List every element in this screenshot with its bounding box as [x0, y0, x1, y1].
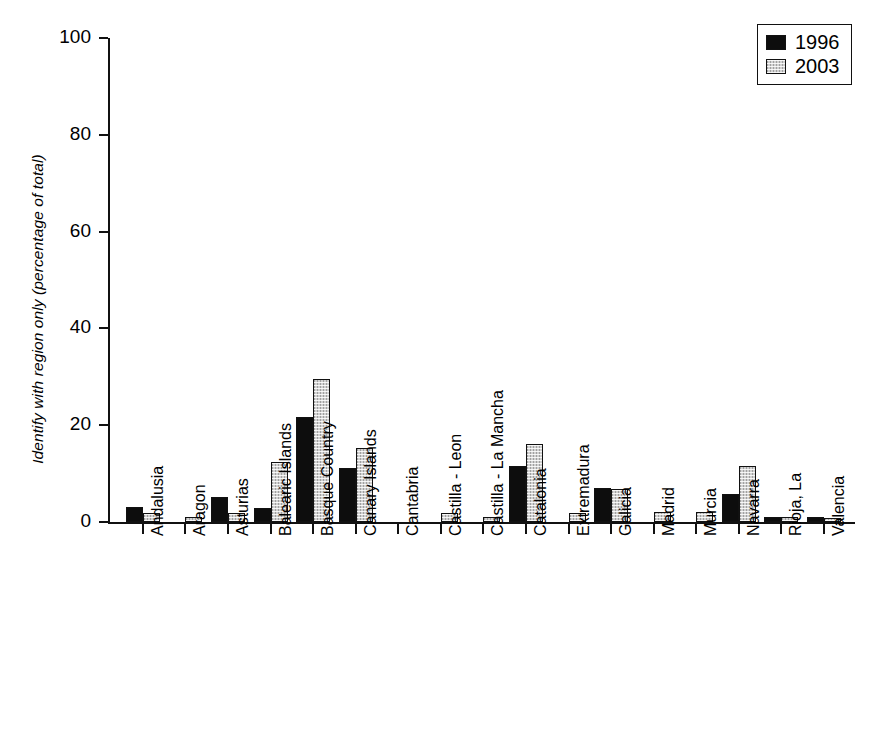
x-label-galicia: Galicia: [617, 487, 635, 536]
legend-label-1996: 1996: [795, 32, 840, 52]
x-label-cantabria: Cantabria: [404, 467, 422, 536]
x-tick-5: [355, 524, 357, 534]
x-tick-8: [482, 524, 484, 534]
x-label-catalonia: Catalonia: [532, 468, 550, 536]
legend-swatch-2003-icon: [766, 59, 786, 74]
y-tick-label-60: 60: [70, 220, 91, 242]
x-tick-15: [780, 524, 782, 534]
x-tick-2: [227, 524, 229, 534]
bar-1996-balearic-islands: [254, 508, 271, 522]
x-label-murcia: Murcia: [702, 488, 720, 536]
x-tick-7: [440, 524, 442, 534]
x-label-extremadura: Extremadura: [575, 444, 593, 536]
bar-1996-andalusia: [126, 507, 143, 522]
y-tick-label-0: 0: [80, 510, 91, 532]
x-label-rioja-la: Rioja, La: [787, 473, 805, 536]
bar-1996-galicia: [594, 488, 611, 522]
bar-1996-canary-islands: [339, 468, 356, 522]
x-tick-9: [525, 524, 527, 534]
y-tick-80: 80: [99, 134, 108, 136]
x-label-valencia: Valencia: [830, 476, 848, 536]
y-axis-title: Identify with region only (percentage of…: [29, 99, 47, 519]
legend-label-2003: 2003: [795, 56, 840, 76]
plot-area: 020406080100: [108, 38, 855, 522]
chart-legend: 1996 2003: [757, 24, 852, 85]
legend-swatch-1996-icon: [766, 35, 786, 50]
y-tick-20: 20: [99, 424, 108, 426]
x-label-aragon: Aragon: [191, 484, 209, 536]
y-tick-100: 100: [99, 37, 108, 39]
legend-entry-2003: 2003: [766, 54, 840, 78]
bar-1996-catalonia: [509, 466, 526, 522]
bar-1996-navarra: [722, 494, 739, 522]
x-tick-11: [610, 524, 612, 534]
x-tick-3: [270, 524, 272, 534]
x-label-madrid: Madrid: [660, 487, 678, 536]
bar-1996-valencia: [807, 517, 824, 522]
x-tick-6: [397, 524, 399, 534]
y-tick-label-20: 20: [70, 413, 91, 435]
x-tick-0: [142, 524, 144, 534]
x-tick-14: [738, 524, 740, 534]
y-tick-0: 0: [99, 521, 108, 523]
x-label-asturias: Asturias: [234, 478, 252, 536]
x-label-balearic-islands: Balearic Islands: [277, 423, 295, 536]
bar-1996-rioja-la: [764, 517, 781, 522]
x-label-castilla-la-mancha: Castilla - La Mancha: [489, 390, 507, 536]
y-axis-line: [108, 38, 110, 522]
x-tick-12: [653, 524, 655, 534]
bar-chart-figure: Identify with region only (percentage of…: [0, 0, 871, 751]
x-label-castilla-leon: Castilla - Leon: [447, 434, 465, 536]
y-tick-label-40: 40: [70, 316, 91, 338]
x-label-navarra: Navarra: [745, 479, 763, 536]
x-tick-10: [568, 524, 570, 534]
bar-1996-asturias: [211, 497, 228, 522]
x-label-basque-country: Basque Country: [319, 421, 337, 536]
y-tick-60: 60: [99, 231, 108, 233]
x-tick-1: [184, 524, 186, 534]
x-tick-16: [823, 524, 825, 534]
x-tick-13: [695, 524, 697, 534]
bar-1996-basque-country: [296, 417, 313, 522]
legend-entry-1996: 1996: [766, 30, 840, 54]
x-tick-4: [312, 524, 314, 534]
x-label-canary-islands: Canary Islands: [362, 429, 380, 536]
x-label-andalusia: Andalusia: [149, 466, 167, 536]
y-tick-40: 40: [99, 327, 108, 329]
y-tick-label-80: 80: [70, 123, 91, 145]
y-tick-label-100: 100: [59, 26, 91, 48]
